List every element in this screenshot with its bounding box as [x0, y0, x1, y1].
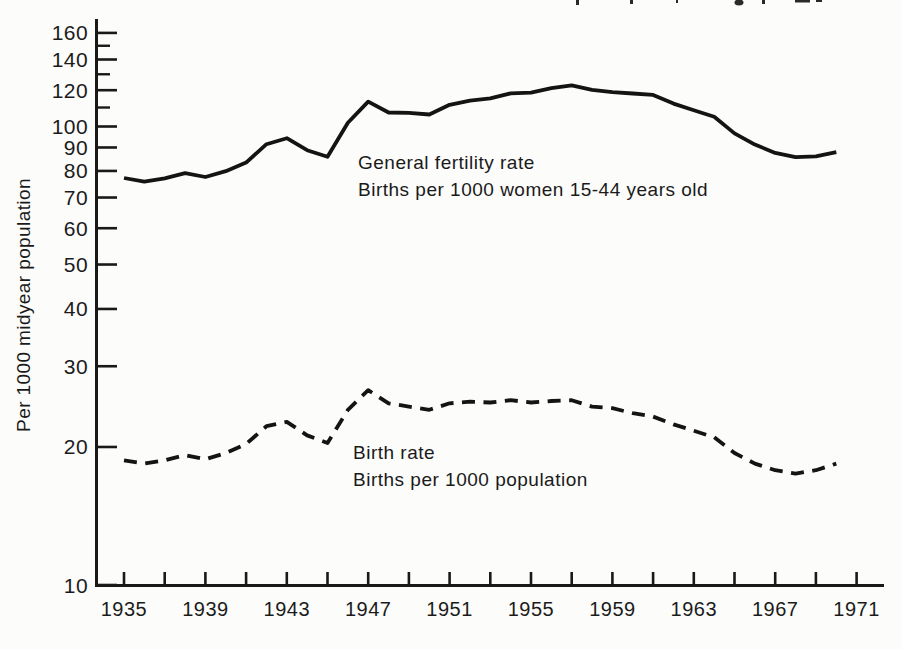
y-tick-label: 100 — [52, 115, 88, 138]
x-tick-label: 1959 — [589, 598, 636, 620]
scanned-chart-page: 1601401201009080706050403020101935193919… — [0, 0, 902, 649]
axis-spine — [97, 19, 885, 586]
y-tick-label: 80 — [64, 159, 88, 182]
y-tick-label: 140 — [52, 48, 88, 71]
x-tick-label: 1935 — [101, 598, 148, 620]
cropped-caption-fragment — [576, 0, 822, 6]
y-tick-label: 90 — [64, 136, 88, 159]
series-annotation-general-fertility-rate: General fertility rate Births per 1000 w… — [358, 149, 708, 203]
y-tick-label: 40 — [64, 297, 88, 320]
y-tick-label: 30 — [64, 355, 88, 378]
x-tick-label: 1951 — [426, 598, 473, 620]
annotation-line: Births per 1000 women 15-44 years old — [358, 176, 708, 203]
y-tick-label: 160 — [52, 21, 88, 44]
annotation-line: Birth rate — [353, 439, 588, 466]
y-axis-title: Per 1000 midyear population — [13, 175, 35, 435]
y-tick-label: 10 — [64, 574, 88, 597]
x-tick-label: 1971 — [833, 598, 880, 620]
annotation-line: Births per 1000 population — [353, 466, 588, 493]
y-tick-label: 20 — [64, 435, 88, 458]
y-tick-label: 50 — [64, 253, 88, 276]
x-tick-label: 1963 — [671, 598, 718, 620]
y-tick-label: 120 — [52, 79, 88, 102]
x-tick-label: 1939 — [182, 598, 229, 620]
chart-canvas: 1601401201009080706050403020101935193919… — [0, 0, 902, 649]
annotation-line: General fertility rate — [358, 149, 708, 176]
y-tick-label: 60 — [64, 217, 88, 240]
y-tick-label: 70 — [64, 186, 88, 209]
x-tick-label: 1967 — [752, 598, 799, 620]
series-annotation-birth-rate: Birth rate Births per 1000 population — [353, 439, 588, 493]
x-tick-label: 1943 — [264, 598, 311, 620]
x-tick-label: 1947 — [345, 598, 392, 620]
x-tick-label: 1955 — [508, 598, 555, 620]
